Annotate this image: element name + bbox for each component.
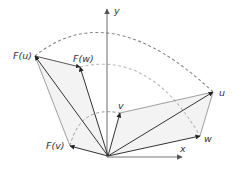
label-v: v	[118, 100, 124, 111]
vector-transformation-diagram: y x u v w F(u) F(w) F(v)	[0, 0, 239, 169]
label-u: u	[219, 87, 225, 98]
label-Fv: F(v)	[46, 140, 65, 151]
label-Fw: F(w)	[73, 53, 94, 64]
y-axis-label: y	[113, 5, 120, 16]
label-Fu: F(u)	[13, 50, 32, 61]
x-axis-label: x	[179, 143, 186, 154]
label-w: w	[204, 133, 212, 144]
